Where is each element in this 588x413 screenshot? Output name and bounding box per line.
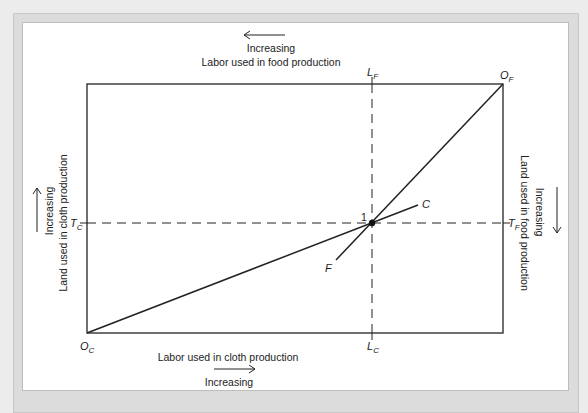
curve-f-label: F — [325, 262, 333, 274]
bottom-axis-label: Labor used in cloth production — [158, 351, 299, 363]
tc-label: TC — [70, 217, 83, 232]
top-axis-label: Labor used in food production — [202, 56, 341, 68]
lf-label: LF — [367, 66, 379, 81]
origin-cloth-label: OC — [80, 340, 95, 355]
box-outline — [87, 84, 503, 333]
left-axis-label: Land used in cloth production — [57, 154, 69, 291]
tf-label: TF — [508, 217, 521, 232]
left-increasing-label: Increasing — [43, 187, 55, 236]
right-increasing-label: Increasing — [534, 188, 546, 237]
food-expansion-line-F — [336, 84, 503, 260]
bottom-increasing-label: Increasing — [205, 376, 254, 388]
arrow-up-icon — [33, 188, 41, 232]
origin-food-label: OF — [500, 69, 515, 84]
lc-label: LC — [367, 340, 379, 355]
curve-c-label: C — [422, 198, 430, 210]
arrow-down-icon — [553, 187, 561, 233]
cloth-expansion-line-C — [87, 205, 418, 333]
arrow-right-icon — [214, 365, 255, 373]
arrow-left-icon — [244, 31, 285, 39]
right-axis-label: Land used in food production — [519, 155, 531, 291]
top-increasing-label: Increasing — [247, 42, 296, 54]
point-1-label: 1 — [361, 211, 367, 223]
equilibrium-point — [369, 220, 375, 226]
